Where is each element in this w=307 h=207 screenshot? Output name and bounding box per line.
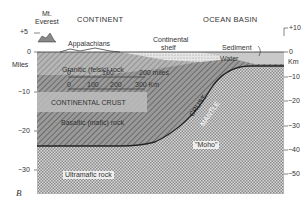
region-continent: CONTINENT: [77, 16, 123, 24]
right-axis-minus50: −50: [288, 170, 300, 177]
right-axis-minus20: −20: [288, 97, 300, 104]
scale-miles-100: 100: [102, 69, 114, 77]
left-axis-minus10: −10: [18, 88, 30, 95]
right-axis-plus10: +10: [289, 24, 301, 31]
label-ultramafic: Ultramafic rock: [63, 171, 114, 179]
label-continental-shelf-1: Continental: [153, 36, 188, 44]
label-granitic: Granitic (felsic) rock: [62, 66, 124, 74]
right-axis-minus30: −30: [288, 122, 300, 129]
right-axis-unit: Km: [288, 58, 299, 65]
left-axis-unit: Miles: [12, 61, 28, 68]
label-everest: Everest: [35, 18, 59, 26]
cross-section-figure: [0, 0, 307, 207]
scale-km-100: 100: [87, 81, 99, 89]
region-ocean-basin: OCEAN BASIN: [203, 16, 258, 24]
right-axis-0: 0: [289, 48, 293, 55]
mt-everest-icon: [38, 33, 56, 42]
left-axis-0: 0: [27, 48, 31, 55]
scale-miles-0: 0: [67, 69, 71, 77]
label-continental-crust: CONTINENTAL CRUST: [51, 99, 126, 107]
right-axis-minus10: −10: [288, 73, 300, 80]
scale-miles-200: 200 miles: [139, 69, 169, 77]
right-axis-minus40: −40: [288, 146, 300, 153]
left-axis-plus5: +5: [20, 28, 28, 35]
label-moho: "Moho": [193, 141, 219, 149]
appalachians-relief: [60, 48, 120, 52]
label-mt: Mt.: [42, 10, 52, 18]
label-appalachians: Appalachians: [68, 40, 110, 48]
scale-km-200: 200: [110, 81, 122, 89]
label-sediment: Sediment: [222, 44, 252, 52]
label-basaltic: Basaltic (mafic) rock: [61, 119, 124, 127]
left-axis-minus30: −30: [18, 166, 30, 173]
scale-km-300: 300 Km: [135, 81, 159, 89]
left-axis-minus20: −20: [18, 127, 30, 134]
scale-km-0: 0: [67, 81, 71, 89]
panel-label: B: [16, 189, 22, 197]
label-continental-shelf-2: shelf: [161, 44, 176, 52]
label-water: Water: [220, 55, 238, 63]
